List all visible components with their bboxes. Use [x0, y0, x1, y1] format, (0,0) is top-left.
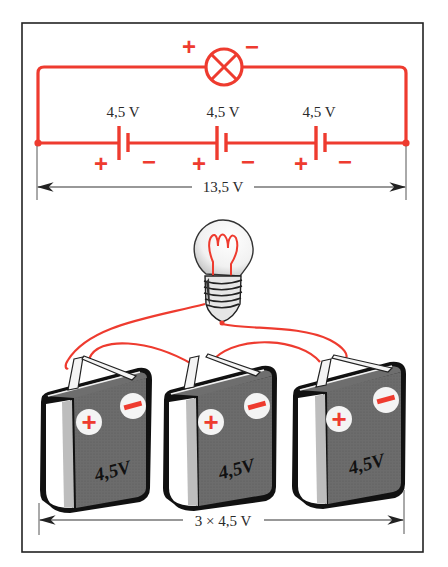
- cell-symbol-3-icon: [316, 126, 325, 160]
- svg-text:+: +: [331, 404, 346, 434]
- cell-symbol-2-icon: [217, 126, 226, 160]
- series-circuit-diagram: + − 4,5 V 4,5 V 4,5 V + − + − + − 13,5 V: [0, 0, 448, 567]
- junction-dot-left: [34, 139, 41, 146]
- total-voltage-label: 13,5 V: [203, 179, 244, 195]
- cell-3-voltage-label: 4,5 V: [302, 104, 335, 120]
- cell-2-minus-sign: −: [241, 148, 255, 175]
- cell-2-plus-sign: +: [192, 150, 206, 177]
- junction-dot-right: [402, 139, 409, 146]
- cell-3-plus-sign: +: [294, 150, 308, 177]
- battery-2: + 4,5V: [163, 354, 277, 511]
- battery-3: + 4,5V: [292, 355, 406, 509]
- cell-1-voltage-label: 4,5 V: [106, 104, 139, 120]
- light-bulb-icon: [194, 220, 253, 326]
- cell-1-minus-sign: −: [142, 148, 156, 175]
- lamp-plus-sign: +: [182, 33, 196, 60]
- cell-3-minus-sign: −: [338, 148, 352, 175]
- svg-text:+: +: [81, 407, 96, 437]
- battery-1: + 4,5V: [40, 356, 152, 513]
- bottom-total-voltage-label: 3 × 4,5 V: [195, 513, 252, 529]
- svg-text:+: +: [203, 407, 218, 437]
- schematic: + − 4,5 V 4,5 V 4,5 V + − + − + − 13,5 V: [34, 33, 409, 200]
- cell-2-voltage-label: 4,5 V: [206, 104, 239, 120]
- lamp-symbol-icon: [206, 49, 242, 85]
- lamp-minus-sign: −: [245, 33, 259, 60]
- cell-symbol-1-icon: [119, 126, 128, 160]
- cell-1-plus-sign: +: [94, 150, 108, 177]
- illustration: + 4,5V + 4,5V: [39, 220, 406, 535]
- illustration-wires: [66, 304, 347, 369]
